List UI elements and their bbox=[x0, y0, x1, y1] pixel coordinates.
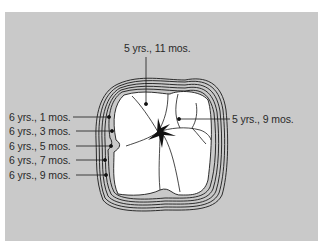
label-6yrs-3mos: 6 yrs., 3 mos. bbox=[9, 125, 71, 137]
label-6yrs-9mos: 6 yrs., 9 mos. bbox=[9, 169, 71, 181]
label-6yrs-1mos: 6 yrs., 1 mos. bbox=[9, 111, 71, 123]
label-6yrs-5mos: 6 yrs., 5 mos. bbox=[9, 140, 71, 152]
label-6yrs-7mos: 6 yrs., 7 mos. bbox=[9, 154, 71, 166]
label-5yrs-11mos: 5 yrs., 11 mos. bbox=[124, 42, 191, 54]
label-5yrs-9mos: 5 yrs., 9 mos. bbox=[232, 113, 294, 125]
